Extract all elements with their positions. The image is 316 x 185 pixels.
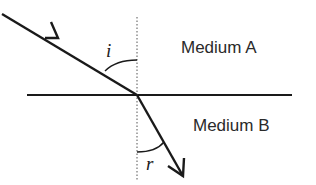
incident-arrow-icon	[45, 22, 58, 38]
incident-ray	[2, 14, 137, 95]
medium-b-label: Medium B	[193, 116, 270, 136]
diagram-graphics	[0, 0, 316, 185]
refraction-diagram: i r Medium A Medium B	[0, 0, 316, 185]
medium-a-label: Medium A	[181, 38, 257, 58]
refraction-angle-arc	[137, 142, 164, 152]
angle-r-label: r	[146, 153, 153, 175]
refracted-ray	[137, 95, 183, 176]
angle-i-label: i	[106, 40, 111, 62]
